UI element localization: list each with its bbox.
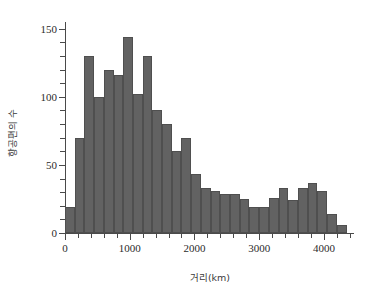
- x-tick-label: 3000: [248, 242, 270, 254]
- histogram-bar: [201, 188, 211, 233]
- x-tick-minor: [246, 234, 247, 238]
- histogram-bar: [181, 138, 191, 233]
- histogram-bar: [337, 225, 347, 233]
- histogram-bar: [317, 191, 327, 233]
- histogram-bar: [288, 200, 298, 233]
- histogram-bar: [191, 174, 201, 233]
- x-tick-major: [259, 234, 260, 240]
- x-tick-minor: [117, 234, 118, 238]
- histogram-bar: [84, 56, 94, 233]
- x-tick-minor: [233, 234, 234, 238]
- histogram-bar: [220, 194, 230, 233]
- x-tick-major: [194, 234, 195, 240]
- x-axis-title: 거리(km): [60, 270, 360, 284]
- plot-area: 050100150 01000200030004000: [65, 22, 353, 233]
- x-tick-minor: [143, 234, 144, 238]
- histogram-bar: [298, 188, 308, 233]
- histogram-bar: [211, 191, 221, 233]
- x-tick-minor: [220, 234, 221, 238]
- histogram-bar: [259, 207, 269, 233]
- x-tick-minor: [285, 234, 286, 238]
- histogram-bar: [114, 75, 124, 233]
- y-axis-title: 항공편의 수: [5, 78, 21, 188]
- x-tick-minor: [207, 234, 208, 238]
- histogram-bar: [240, 199, 250, 233]
- histogram-bar: [94, 97, 104, 233]
- x-tick-label: 0: [62, 242, 68, 254]
- histogram-bar: [308, 183, 318, 233]
- x-tick-minor: [311, 234, 312, 238]
- x-tick-minor: [169, 234, 170, 238]
- x-tick-minor: [91, 234, 92, 238]
- histogram-bar: [249, 207, 259, 233]
- x-tick-minor: [298, 234, 299, 238]
- x-tick-minor: [104, 234, 105, 238]
- x-tick-minor: [272, 234, 273, 238]
- x-tick-label: 4000: [313, 242, 335, 254]
- x-tick-minor: [181, 234, 182, 238]
- x-tick-minor: [78, 234, 79, 238]
- y-tick-label: 150: [41, 23, 58, 35]
- histogram-bar: [75, 138, 85, 233]
- y-tick-label: 0: [52, 227, 58, 239]
- bar-series: [65, 22, 354, 234]
- histogram-bar: [152, 110, 162, 233]
- histogram-bar: [230, 194, 240, 233]
- histogram-bar: [104, 70, 114, 233]
- histogram-bar: [327, 214, 337, 233]
- histogram-bar: [143, 56, 153, 233]
- histogram-bar: [279, 188, 289, 233]
- x-tick-label: 2000: [183, 242, 205, 254]
- x-tick-major: [65, 234, 66, 240]
- x-tick-label: 1000: [119, 242, 141, 254]
- histogram-figure: 항공편의 수 050100150 01000200030004000 거리(km…: [0, 0, 371, 297]
- y-tick-label: 50: [46, 159, 57, 171]
- histogram-bar: [123, 37, 133, 233]
- histogram-bar: [133, 94, 143, 233]
- x-tick-minor: [350, 234, 351, 238]
- x-tick-minor: [337, 234, 338, 238]
- x-tick-minor: [156, 234, 157, 238]
- x-tick-major: [324, 234, 325, 240]
- histogram-bar: [269, 198, 279, 233]
- x-tick-major: [130, 234, 131, 240]
- y-tick-label: 100: [41, 91, 58, 103]
- histogram-bar: [162, 124, 172, 233]
- histogram-bar: [65, 207, 75, 233]
- histogram-bar: [172, 151, 182, 233]
